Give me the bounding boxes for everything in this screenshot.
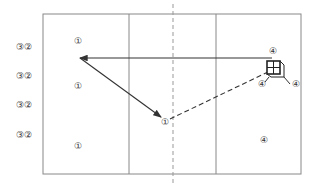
drill-diagram: ③②③②③②③②①①①①④④④④ (0, 0, 314, 186)
player-1-marker: ① (74, 36, 82, 46)
dashed-path (170, 72, 268, 119)
player-1-marker: ① (161, 117, 169, 127)
waiting-players-label: ③② (16, 130, 32, 140)
waiting-players-label: ③② (16, 100, 32, 110)
movement-paths (80, 58, 272, 119)
ball-cart-icon (265, 61, 290, 84)
arrow-path (80, 58, 161, 117)
player-1-marker: ① (74, 141, 82, 151)
player-4-marker: ④ (269, 46, 277, 56)
player-4-marker: ④ (292, 79, 300, 89)
court (43, 4, 301, 184)
player-4-marker: ④ (260, 135, 268, 145)
player-4-marker: ④ (258, 79, 266, 89)
waiting-players-label: ③② (16, 71, 32, 81)
waiting-players-label: ③② (16, 42, 32, 52)
player-labels: ③②③②③②③②①①①①④④④④ (16, 36, 300, 151)
player-1-marker: ① (74, 81, 82, 91)
